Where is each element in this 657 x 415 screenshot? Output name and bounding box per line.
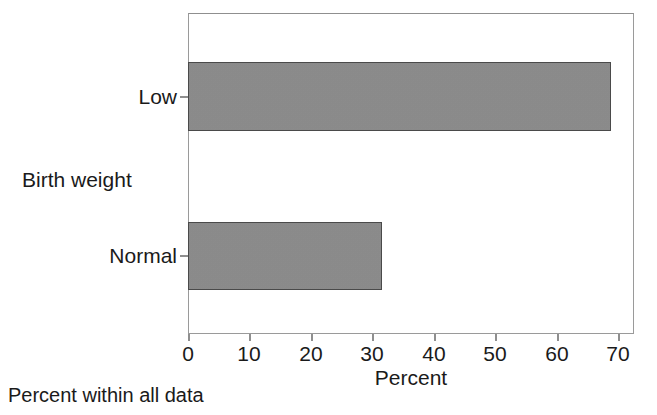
x-tick-label-40: 40 bbox=[404, 341, 464, 367]
bar-low[interactable] bbox=[188, 62, 611, 131]
x-tick-0 bbox=[188, 334, 190, 341]
bar-chart: Low Normal 0 10 20 30 40 50 60 70 Birth … bbox=[0, 0, 657, 415]
x-tick-label-20: 20 bbox=[281, 341, 341, 367]
x-tick-40 bbox=[434, 334, 436, 341]
x-tick-60 bbox=[557, 334, 559, 341]
x-tick-10 bbox=[249, 334, 251, 341]
x-tick-20 bbox=[311, 334, 313, 341]
x-tick-label-60: 60 bbox=[527, 341, 587, 367]
x-tick-label-50: 50 bbox=[465, 341, 525, 367]
x-tick-30 bbox=[372, 334, 374, 341]
x-tick-label-10: 10 bbox=[219, 341, 279, 367]
x-tick-label-70: 70 bbox=[588, 341, 648, 367]
x-axis-title: Percent bbox=[188, 366, 634, 390]
x-tick-label-0: 0 bbox=[158, 341, 218, 367]
y-axis-title: Birth weight bbox=[22, 168, 132, 192]
x-tick-label-30: 30 bbox=[342, 341, 402, 367]
plot-area bbox=[188, 13, 634, 334]
y-tick-label-low: Low bbox=[138, 85, 177, 109]
bar-normal[interactable] bbox=[188, 222, 382, 290]
chart-footnote: Percent within all data bbox=[8, 383, 204, 407]
x-tick-50 bbox=[495, 334, 497, 341]
x-tick-70 bbox=[618, 334, 620, 341]
y-tick-low bbox=[180, 96, 188, 98]
y-tick-normal bbox=[180, 255, 188, 257]
y-tick-label-normal: Normal bbox=[109, 244, 177, 268]
